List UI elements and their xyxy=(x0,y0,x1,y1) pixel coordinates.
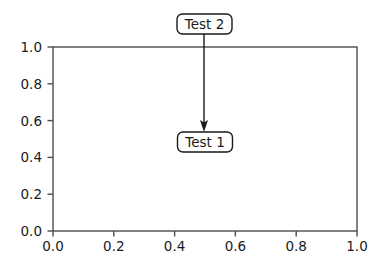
y-axis-tick-labels: 0.0 0.2 0.4 0.6 0.8 1.0 xyxy=(21,39,42,239)
x-tick-label-2: 0.4 xyxy=(164,238,185,254)
x-tick-label-5: 1.0 xyxy=(346,238,367,254)
annotation-test2-label: Test 2 xyxy=(184,16,224,32)
annotation-arrow-test2-to-test1 xyxy=(200,34,208,132)
annotation-test1-label: Test 1 xyxy=(184,134,224,150)
y-tick-label-0: 0.0 xyxy=(21,223,42,239)
annotation-test2[interactable]: Test 2 xyxy=(177,14,232,34)
x-tick-label-3: 0.6 xyxy=(225,238,246,254)
x-tick-label-1: 0.2 xyxy=(103,238,124,254)
x-axis-tick-labels: 0.0 0.2 0.4 0.6 0.8 1.0 xyxy=(42,238,367,254)
x-tick-label-4: 0.8 xyxy=(285,238,306,254)
x-tick-label-0: 0.0 xyxy=(42,238,63,254)
y-tick-label-4: 0.8 xyxy=(21,76,42,92)
y-tick-label-5: 1.0 xyxy=(21,39,42,55)
y-tick-label-1: 0.2 xyxy=(21,186,42,202)
y-tick-label-3: 0.6 xyxy=(21,113,42,129)
annotation-test1[interactable]: Test 1 xyxy=(178,132,233,152)
plot-canvas: 0.0 0.2 0.4 0.6 0.8 1.0 0.0 0.2 0.4 0.6 … xyxy=(0,0,383,273)
y-tick-label-2: 0.4 xyxy=(21,149,42,165)
matplotlib-figure: 0.0 0.2 0.4 0.6 0.8 1.0 0.0 0.2 0.4 0.6 … xyxy=(0,0,383,273)
y-axis-ticks xyxy=(48,47,54,231)
x-axis-ticks xyxy=(53,231,357,237)
